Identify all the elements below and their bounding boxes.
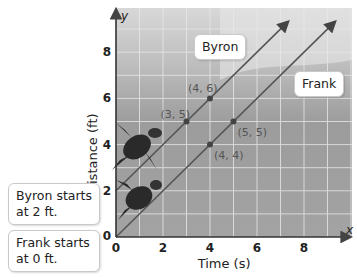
data-point <box>207 142 213 148</box>
svg-text:x: x <box>345 223 354 237</box>
data-point <box>207 95 213 101</box>
point-label: (4, 6) <box>188 82 218 95</box>
y-tick-label: 2 <box>103 184 111 198</box>
data-point <box>231 119 237 125</box>
y-axis-label: Distance (ft) <box>85 113 100 194</box>
byron-start-line2: at 2 ft. <box>16 204 92 220</box>
svg-text:y: y <box>120 9 129 23</box>
frank-start-line1: Frank starts <box>16 235 92 251</box>
y-tick-label: 0 <box>103 229 111 243</box>
frank-start-callout: Frank starts at 0 ft. <box>8 230 100 272</box>
point-label: (3, 5) <box>161 108 191 121</box>
x-tick-label: 8 <box>300 241 308 255</box>
frank-start-line2: at 0 ft. <box>16 251 92 267</box>
byron-start-line1: Byron starts <box>16 188 92 204</box>
x-tick-label: 6 <box>253 241 261 255</box>
frank-line-label: Frank <box>294 71 344 97</box>
byron-start-callout: Byron starts at 2 ft. <box>8 183 100 225</box>
y-tick-label: 4 <box>103 138 111 152</box>
y-tick-label: 6 <box>103 91 111 105</box>
x-tick-label: 0 <box>112 241 120 255</box>
x-axis-label: Time (s) <box>197 256 251 271</box>
byron-line-label: Byron <box>194 34 246 60</box>
point-label: (4, 4) <box>214 149 244 162</box>
y-tick-label: 8 <box>103 45 111 59</box>
x-tick-label: 2 <box>159 241 167 255</box>
point-label: (5, 5) <box>238 126 268 139</box>
x-tick-label: 4 <box>206 241 214 255</box>
